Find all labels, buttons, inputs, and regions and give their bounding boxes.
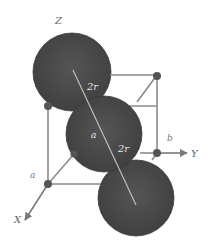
label-edge-b: b <box>167 133 173 143</box>
node-mid-bottom <box>71 151 78 158</box>
label-axis-x: X <box>13 214 22 225</box>
edge-top-right-depth <box>137 75 157 102</box>
node-back-top-left <box>44 102 52 110</box>
node-origin <box>153 149 161 157</box>
label-axis-y: Y <box>191 148 199 159</box>
label-diagonal-upper: 2r <box>86 81 99 92</box>
edge-bottom-left-depth <box>48 154 74 184</box>
sphere-middle <box>66 96 142 172</box>
label-diagonal-lower: 2r <box>117 143 130 154</box>
node-front-bottom-left <box>44 180 52 188</box>
node-back-top-right <box>153 72 161 80</box>
axis-x-arrow <box>25 184 48 220</box>
unit-cell-diagram: Z X Y a a b 2r 2r <box>0 0 210 246</box>
label-edge-a-center: a <box>91 130 96 140</box>
label-axis-z: Z <box>54 15 63 26</box>
label-edge-a-left: a <box>30 170 35 180</box>
